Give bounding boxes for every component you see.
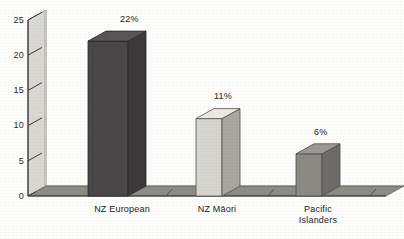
data-label-nz-maori: 11% <box>214 92 232 101</box>
x-axis-label-pacific-islanders-line1: Pacific <box>278 204 358 215</box>
bar-chart: 25 20 15 10 5 0 22% 11% 6% NZ European N… <box>0 0 404 239</box>
bar-nz-european[interactable] <box>88 31 146 196</box>
bar-2-front <box>196 119 222 196</box>
data-label-nz-european: 22% <box>120 15 139 24</box>
x-axis-label-pacific-islanders: Pacific Islanders <box>278 204 358 226</box>
x-axis-label-pacific-islanders-line2: Islanders <box>278 215 358 226</box>
y-axis-label-10: 10 <box>2 121 24 130</box>
y-axis-label-5: 5 <box>2 157 24 166</box>
x-axis-label-nz-maori-line1: NZ Māori <box>177 204 257 215</box>
bar-2-side <box>222 109 240 196</box>
back-wall-edge <box>44 10 46 187</box>
bar-pacific-islanders[interactable] <box>296 144 340 196</box>
bar-1-front <box>88 41 128 196</box>
bar-nz-maori[interactable] <box>196 109 240 196</box>
bar-3-front <box>296 154 322 196</box>
x-axis-label-nz-maori: NZ Māori <box>177 204 257 215</box>
y-axis-label-25: 25 <box>2 16 24 25</box>
data-label-pacific-islanders: 6% <box>314 128 327 137</box>
x-axis-label-nz-european: NZ European <box>77 204 167 215</box>
y-axis-label-0: 0 <box>2 192 24 201</box>
y-axis-label-15: 15 <box>2 86 24 95</box>
plot-area: 25 20 15 10 5 0 22% 11% 6% NZ European N… <box>0 0 404 239</box>
back-wall-face <box>28 10 46 196</box>
y-axis-label-20: 20 <box>2 51 24 60</box>
bar-1-side <box>128 31 146 196</box>
x-axis-label-nz-european-line1: NZ European <box>77 204 167 215</box>
